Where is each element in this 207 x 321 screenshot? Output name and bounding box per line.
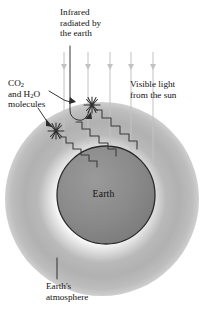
- label-co2-line-1: CO2: [8, 78, 45, 89]
- leader-line-infrared: [70, 46, 89, 120]
- label-visible-line-2: from the sun: [130, 90, 176, 101]
- label-co2-line-2: and H2O: [8, 89, 45, 100]
- label-co2-line-3: molecules: [8, 99, 45, 110]
- label-h2o-formula-suffix: O: [34, 89, 41, 99]
- infrared-wave-middle: [76, 122, 116, 156]
- label-earth: Earth: [0, 189, 207, 200]
- label-infrared-line-3: the earth: [60, 28, 101, 39]
- infrared-overlay-group: [0, 0, 207, 321]
- label-co2-formula-text: CO: [8, 78, 21, 88]
- leader-arrow-co2-upper: [69, 97, 76, 104]
- label-visible-light-from-sun: Visible light from the sun: [130, 79, 176, 100]
- label-earths-atmosphere: Earth's atmosphere: [46, 281, 88, 302]
- label-co2-and-h2o-molecules: CO2 and H2O molecules: [8, 78, 45, 110]
- label-atmosphere-line-2: atmosphere: [46, 292, 88, 303]
- label-co2-subscript: 2: [21, 81, 24, 88]
- label-visible-line-1: Visible light: [130, 79, 176, 90]
- label-infrared-line-1: Infrared: [60, 7, 101, 18]
- label-atmosphere-line-1: Earth's: [46, 281, 88, 292]
- greenhouse-effect-figure: Infrared radiated by the earth CO2 and H…: [0, 0, 207, 321]
- label-infrared-radiated-by-earth: Infrared radiated by the earth: [60, 7, 101, 39]
- molecule-upper: [84, 97, 100, 113]
- label-h2o-formula-text: and H: [8, 89, 30, 99]
- infrared-wave-lower: [60, 137, 97, 167]
- label-infrared-line-2: radiated by: [60, 18, 101, 29]
